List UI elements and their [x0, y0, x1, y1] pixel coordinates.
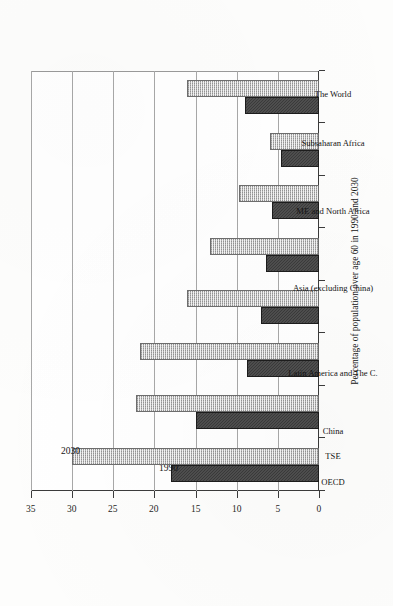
category-label: The World — [314, 89, 351, 129]
value-tick — [72, 491, 73, 498]
bar-group — [31, 281, 319, 334]
value-tick-label: 15 — [188, 505, 202, 515]
bar-1990 — [266, 255, 319, 272]
bar-2030: 2030 — [72, 448, 319, 465]
value-tick-label: 35 — [23, 505, 37, 515]
value-tick — [195, 491, 196, 498]
value-tick — [277, 491, 278, 498]
value-tick — [31, 491, 32, 498]
bar-2030 — [187, 80, 319, 97]
bar-groups: 19902030 — [31, 71, 319, 491]
chart-figure: 05101520253035 19902030 OECDTSEChinaLati… — [0, 0, 393, 606]
value-tick-label: 25 — [106, 505, 120, 515]
plot-area: 05101520253035 19902030 — [31, 71, 319, 491]
value-tick — [113, 491, 114, 498]
bar-group: 19902030 — [31, 439, 319, 492]
value-tick — [236, 491, 237, 498]
bar-1990 — [244, 97, 318, 114]
bar-group — [31, 229, 319, 282]
value-axis-title-wrap: Percentage of population over age 60 in … — [351, 71, 365, 491]
category-label-cell: China — [327, 414, 373, 440]
category-label: China — [322, 427, 343, 467]
value-axis-title: Percentage of population over age 60 in … — [351, 71, 360, 491]
value-tick-label: 30 — [64, 505, 78, 515]
category-tick — [319, 70, 325, 71]
bar-group — [31, 386, 319, 439]
bar-1990: 1990 — [170, 465, 318, 482]
category-label-cell: The World — [327, 71, 373, 108]
category-tick — [319, 333, 325, 334]
value-tick-label: 20 — [147, 505, 161, 515]
value-tick-label: 5 — [270, 505, 284, 515]
value-tick — [154, 491, 155, 498]
bar-2030 — [139, 343, 318, 360]
category-tick — [319, 280, 325, 281]
bar-group — [31, 176, 319, 229]
bar-chart: 05101520253035 19902030 OECDTSEChinaLati… — [17, 23, 377, 583]
value-tick-label: 10 — [229, 505, 243, 515]
series-label-2030: 2030 — [60, 447, 79, 457]
series-label-1990: 1990 — [159, 464, 178, 474]
bar-group — [31, 71, 319, 124]
value-tick — [319, 491, 320, 498]
rotated-chart-stage: 05101520253035 19902030 OECDTSEChinaLati… — [17, 23, 377, 583]
bar-group — [31, 124, 319, 177]
bar-group — [31, 334, 319, 387]
bar-1990 — [195, 412, 318, 429]
bar-2030 — [239, 185, 319, 202]
